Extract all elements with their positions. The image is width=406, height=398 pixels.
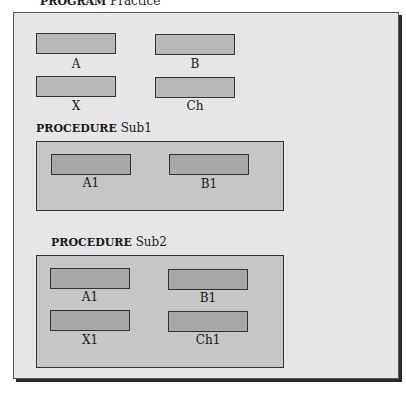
- variable-label-a1: A1: [50, 290, 130, 304]
- procedure-name: Sub1: [121, 121, 152, 135]
- variable-label-ch: Ch: [155, 99, 235, 113]
- variable-label-a: A: [36, 57, 116, 71]
- program-keyword: PROGRAM: [40, 0, 106, 8]
- variable-box-x1: [50, 310, 130, 331]
- variable-label-x: X: [36, 99, 116, 113]
- variable-box-a: [36, 33, 116, 54]
- variable-box-x: [36, 76, 116, 97]
- variable-box-a1: [51, 154, 131, 175]
- variable-label-b: B: [155, 57, 235, 71]
- variable-label-ch1: Ch1: [168, 333, 248, 347]
- program-title: PROGRAM Practice: [40, 0, 160, 8]
- variable-label-b1: B1: [169, 177, 249, 191]
- variable-box-ch1: [168, 311, 248, 332]
- variable-box-ch: [155, 77, 235, 98]
- procedure-keyword: PROCEDURE: [51, 236, 132, 249]
- variable-box-b: [155, 34, 235, 55]
- procedure-title-sub2: PROCEDURE Sub2: [51, 235, 167, 249]
- variable-label-a1: A1: [51, 176, 131, 190]
- variable-box-b1: [169, 154, 249, 175]
- procedure-keyword: PROCEDURE: [36, 122, 117, 135]
- variable-label-b1: B1: [168, 291, 248, 305]
- program-name: Practice: [110, 0, 160, 8]
- variable-box-a1: [50, 268, 130, 289]
- variable-label-x1: X1: [50, 333, 130, 347]
- procedure-title-sub1: PROCEDURE Sub1: [36, 121, 152, 135]
- procedure-name: Sub2: [136, 235, 167, 249]
- variable-box-b1: [168, 269, 248, 290]
